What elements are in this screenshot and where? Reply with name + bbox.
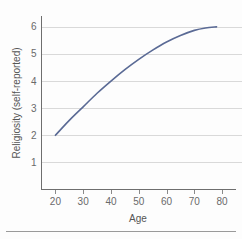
x-tick-label: 60	[161, 196, 173, 207]
religiosity-by-age-line-chart: 20304050607080 123456 Age Religiosity (s…	[0, 0, 242, 239]
y-axis-title: Religiosity (self-reported)	[11, 47, 22, 158]
x-tick-label: 40	[105, 196, 117, 207]
y-tick-label: 6	[31, 21, 37, 32]
y-tick-label: 3	[31, 103, 37, 114]
x-tick-label: 30	[78, 196, 90, 207]
x-tick-label: 20	[50, 196, 62, 207]
x-axis-title: Age	[129, 213, 147, 224]
y-tick-label: 4	[31, 76, 37, 87]
x-tick-label: 50	[133, 196, 145, 207]
y-tick-label: 2	[31, 130, 37, 141]
chart-background	[0, 0, 242, 239]
y-tick-label: 5	[31, 48, 37, 59]
y-tick-label: 1	[31, 157, 37, 168]
x-tick-label: 80	[217, 196, 229, 207]
x-tick-label: 70	[189, 196, 201, 207]
chart-figure: 20304050607080 123456 Age Religiosity (s…	[0, 0, 242, 239]
